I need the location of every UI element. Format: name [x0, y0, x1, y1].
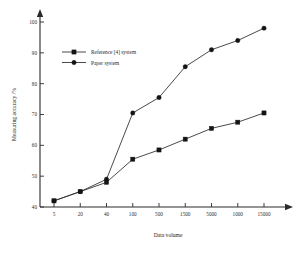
- series-2: [52, 26, 266, 203]
- chart-legend: Reference [4] systemPaper system: [62, 49, 137, 66]
- data-point: [209, 48, 213, 52]
- x-tick-label: 40: [104, 211, 110, 217]
- data-point: [157, 95, 161, 99]
- x-tick-label: 1500: [180, 211, 191, 217]
- legend-marker: [72, 50, 76, 54]
- x-axis-tick-labels: 5204010050015005000100015000: [53, 211, 271, 217]
- x-axis-arrow: [285, 204, 293, 210]
- y-axis-tick-labels: 405060708090100: [29, 19, 37, 210]
- y-tick-label: 90: [32, 50, 38, 56]
- y-tick-label: 60: [32, 142, 38, 148]
- data-point: [262, 26, 266, 30]
- data-point: [131, 111, 135, 115]
- data-point: [262, 111, 266, 115]
- y-axis-title: Measuring accuracy /%: [11, 88, 17, 141]
- legend-entry: Reference [4] system: [62, 49, 137, 55]
- data-point: [236, 38, 240, 42]
- x-tick-label: 500: [155, 211, 163, 217]
- data-point: [157, 148, 161, 152]
- legend-marker: [72, 60, 76, 64]
- y-tick-label: 80: [32, 81, 38, 87]
- series-layer: [52, 26, 266, 203]
- y-tick-label: 50: [32, 173, 38, 179]
- y-tick-label: 100: [29, 19, 37, 25]
- y-tick-label: 40: [32, 204, 38, 210]
- line-chart: 405060708090100 Measuring accuracy /% 52…: [0, 0, 301, 254]
- x-tick-label: 100: [129, 211, 137, 217]
- x-tick-label: 5000: [206, 211, 217, 217]
- legend-label: Paper system: [91, 60, 120, 66]
- data-point: [104, 177, 108, 181]
- legend-label: Reference [4] system: [91, 49, 137, 55]
- data-point: [209, 126, 213, 130]
- data-point: [52, 199, 56, 203]
- x-axis-ticks: [54, 203, 264, 207]
- series-1: [52, 111, 266, 203]
- series-line: [54, 113, 264, 201]
- y-axis-arrow: [37, 9, 43, 17]
- series-line: [54, 28, 264, 201]
- x-tick-label: 5: [53, 211, 56, 217]
- x-tick-label: 15000: [258, 211, 271, 217]
- data-point: [183, 137, 187, 141]
- x-axis: 5204010050015005000100015000 Data volume: [40, 203, 293, 238]
- legend-entry: Paper system: [62, 60, 120, 66]
- data-point: [78, 189, 82, 193]
- x-tick-label: 20: [78, 211, 84, 217]
- data-point: [183, 65, 187, 69]
- x-tick-label: 1000: [233, 211, 244, 217]
- y-tick-label: 70: [32, 111, 38, 117]
- data-point: [131, 157, 135, 161]
- chart-figure: 405060708090100 Measuring accuracy /% 52…: [0, 0, 301, 254]
- x-axis-title: Data volume: [154, 232, 183, 238]
- data-point: [236, 120, 240, 124]
- y-axis: 405060708090100 Measuring accuracy /%: [11, 9, 44, 210]
- y-axis-ticks: [40, 22, 44, 207]
